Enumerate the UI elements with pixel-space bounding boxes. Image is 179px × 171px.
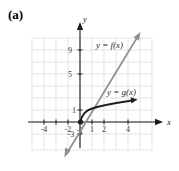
y-tick-label-9: 9: [68, 46, 72, 55]
x-tick-label-4: 4: [126, 125, 130, 134]
graph-canvas: x y 9 5 1 -3 -4 -2 -1 1 2 4: [0, 0, 179, 171]
f-curve-label: y = f(x): [95, 40, 123, 50]
origin-point-marker: [78, 119, 83, 124]
y-axis-label: y: [82, 14, 87, 24]
x-tick-label-1: 1: [90, 125, 94, 134]
figure-container: (a): [0, 0, 179, 171]
x-axis: [28, 119, 163, 125]
x-axis-label: x: [166, 117, 171, 127]
x-tick-label-2: 2: [102, 125, 106, 134]
y-tick-label-5: 5: [68, 70, 72, 79]
y-tick-label-1: 1: [72, 106, 76, 115]
x-tick-label-minus2: -2: [65, 125, 72, 134]
g-curve-label: y = g(x): [106, 87, 136, 97]
x-tick-label-minus4: -4: [41, 125, 48, 134]
